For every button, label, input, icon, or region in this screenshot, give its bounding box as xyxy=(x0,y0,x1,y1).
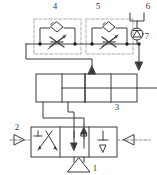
left-routed-line xyxy=(26,44,92,66)
callout-label-5: 5 xyxy=(96,1,101,11)
right-check-seat xyxy=(103,23,105,25)
check-valve-triangle xyxy=(133,30,140,36)
junction-node-d xyxy=(125,42,128,45)
junction-node-a xyxy=(38,42,41,45)
callout-label-6: 6 xyxy=(146,1,151,11)
double-acting-cylinder xyxy=(36,74,157,102)
callout-label-3: 3 xyxy=(115,102,120,112)
right-flow-arrow-down xyxy=(136,62,143,70)
valve-mid-arrow-down xyxy=(71,143,77,150)
callout-label-4: 4 xyxy=(53,1,58,11)
left-throttle-check-valve xyxy=(40,22,75,49)
circuit-diagram: 4 5 6 7 3 2 1 xyxy=(0,0,157,175)
left-flow-arrow-up xyxy=(89,66,96,74)
cylinder-port-left-line xyxy=(43,102,84,125)
left-valve-enclosure xyxy=(34,19,81,54)
vent-silencer xyxy=(130,13,144,28)
right-valve-enclosure xyxy=(86,19,133,54)
valve-right-arrow-down xyxy=(100,145,106,152)
callout-label-7: 7 xyxy=(145,31,150,41)
left-check-seat xyxy=(51,23,53,25)
left-check-valve-diamond xyxy=(51,22,63,32)
valve-left-arrow-head xyxy=(53,146,57,150)
directional-control-valve xyxy=(31,127,117,157)
junction-node-b xyxy=(73,42,76,45)
right-check-valve-diamond xyxy=(103,22,115,32)
cylinder-port-mid-line xyxy=(68,102,74,138)
valve-right-tee xyxy=(98,131,108,140)
schematic-canvas: 4 5 6 7 3 2 1 xyxy=(0,0,157,175)
pressure-supply-triangle xyxy=(68,158,90,172)
vent-bracket xyxy=(130,13,144,21)
callout-label-2: 2 xyxy=(15,122,20,132)
valve-left-tee-1 xyxy=(34,131,42,136)
callout-label-1: 1 xyxy=(93,163,98,173)
right-throttle-check-valve xyxy=(92,22,127,49)
junction-node-c xyxy=(90,42,93,45)
